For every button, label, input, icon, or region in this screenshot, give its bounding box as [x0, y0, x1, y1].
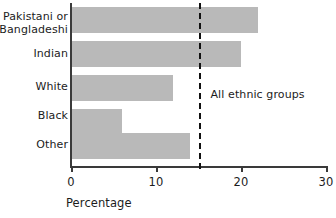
bar-chart: Pakistani or Bangladeshi Indian White Bl…	[0, 0, 336, 218]
x-tick-mark-10	[156, 166, 158, 172]
bar-pakistani-or-bangladeshi	[71, 7, 258, 33]
bar-white	[71, 75, 173, 101]
reference-line-label: All ethnic groups	[211, 88, 305, 101]
category-label-indian: Indian	[0, 48, 68, 61]
bar-indian	[71, 41, 241, 67]
x-tick-label-10: 10	[149, 175, 164, 189]
x-tick-label-0: 0	[67, 175, 74, 189]
x-tick-label-20: 20	[234, 175, 249, 189]
x-tick-mark-0	[71, 166, 73, 172]
bar-other	[71, 133, 190, 159]
category-label-white: White	[0, 81, 68, 94]
x-axis-title: Percentage	[66, 196, 132, 210]
reference-line	[199, 3, 201, 169]
x-tick-mark-30	[326, 166, 328, 172]
x-tick-mark-20	[241, 166, 243, 172]
bar-black	[71, 109, 122, 135]
category-label-black: Black	[0, 110, 68, 123]
x-tick-label-30: 30	[319, 175, 334, 189]
y-axis-line	[70, 3, 72, 167]
category-label-other: Other	[0, 139, 68, 152]
category-label-pakistani-or-bangladeshi: Pakistani or Bangladeshi	[0, 11, 68, 36]
